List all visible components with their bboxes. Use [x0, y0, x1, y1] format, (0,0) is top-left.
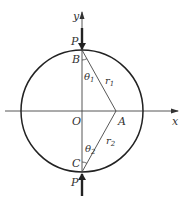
- label-theta2: θ2: [85, 143, 96, 156]
- angle-arc-theta2: [82, 162, 87, 163]
- label-r2: r2: [106, 135, 116, 148]
- label-b: B: [71, 53, 80, 66]
- label-theta1: θ1: [84, 71, 95, 84]
- y-axis-label: y: [72, 10, 80, 23]
- angle-arc-theta1: [82, 59, 87, 60]
- x-axis-label: x: [172, 115, 179, 128]
- circle-diagram: y x O P B A C P θ1 r1 r2 θ2: [0, 0, 185, 198]
- label-p-top: P: [70, 35, 79, 48]
- label-a: A: [117, 115, 126, 128]
- diagram-canvas: y x O P B A C P θ1 r1 r2 θ2: [0, 0, 185, 198]
- label-p-bottom: P: [70, 176, 79, 189]
- label-r1: r1: [105, 75, 114, 88]
- label-c: C: [72, 157, 81, 170]
- origin-label: O: [72, 115, 81, 128]
